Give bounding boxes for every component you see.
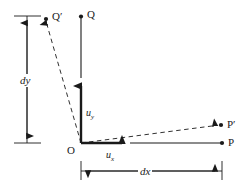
point-p-dot xyxy=(220,141,224,145)
point-q-dot xyxy=(79,14,83,18)
point-label-p-prime: P′ xyxy=(227,119,236,130)
point-q-prime-dot xyxy=(44,17,48,21)
vector-label-u-y-sub: y xyxy=(91,113,94,121)
dashed-edge-origin-p-prime xyxy=(81,126,215,143)
dimension-label-dx: dx xyxy=(138,165,152,178)
point-label-q-prime: Q′ xyxy=(52,11,62,22)
deformation-diagram: Q′ Q P′ P O dy dx uy ux xyxy=(0,0,246,182)
diagram-canvas xyxy=(0,0,246,182)
dashed-edge-origin-q-prime xyxy=(47,23,82,143)
vector-label-u-y: uy xyxy=(86,108,94,121)
point-label-p: P xyxy=(228,137,234,148)
vector-label-u-x-sub: x xyxy=(111,155,114,163)
point-p-prime-dot xyxy=(219,123,223,127)
dimension-label-dy: dy xyxy=(18,74,32,87)
point-label-q: Q xyxy=(87,9,95,20)
vector-label-u-x: ux xyxy=(106,150,114,163)
point-label-origin: O xyxy=(67,145,75,156)
